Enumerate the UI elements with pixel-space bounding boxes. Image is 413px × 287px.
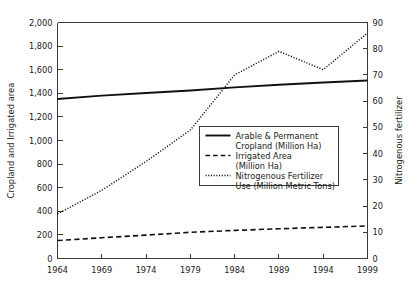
x-tick-label: 1979 xyxy=(180,265,201,275)
legend-label-1: Irrigated Area xyxy=(236,151,292,161)
legend-label-0-line2: Cropland (Million Ha) xyxy=(236,141,322,151)
left-tick-label: 400 xyxy=(37,206,53,216)
chart-container: 02004006008001,0001,2001,4001,6001,8002,… xyxy=(0,0,413,287)
left-tick-label: 2,000 xyxy=(29,18,52,28)
x-tick-label: 1974 xyxy=(136,265,157,275)
left-tick-label: 1,800 xyxy=(29,41,52,51)
line-chart: 02004006008001,0001,2001,4001,6001,8002,… xyxy=(0,0,413,287)
x-tick-label: 1999 xyxy=(357,265,378,275)
x-axis-ticks: 19641969197419791984198919941999 xyxy=(47,254,378,275)
x-tick-label: 1994 xyxy=(313,265,334,275)
legend-label-1-line2: (Million Ha) xyxy=(236,161,283,171)
x-tick-label: 1989 xyxy=(269,265,290,275)
right-tick-label: 20 xyxy=(373,201,383,211)
left-tick-label: 1,600 xyxy=(29,65,52,75)
left-tick-label: 600 xyxy=(37,183,53,193)
right-tick-label: 0 xyxy=(373,254,378,264)
x-tick-label: 1964 xyxy=(47,265,68,275)
right-tick-label: 80 xyxy=(373,44,383,54)
right-tick-label: 70 xyxy=(373,70,383,80)
right-tick-label: 10 xyxy=(373,227,383,237)
left-tick-label: 200 xyxy=(37,230,53,240)
right-tick-label: 30 xyxy=(373,175,383,185)
series-line-0 xyxy=(58,81,368,99)
x-tick-label: 1984 xyxy=(224,265,245,275)
right-tick-label: 40 xyxy=(373,149,383,159)
chart-legend: Arable & PermanentCropland (Million Ha)I… xyxy=(200,127,339,191)
y-axis-label-left: Cropland and Irrigated area xyxy=(6,83,16,199)
right-tick-label: 60 xyxy=(373,96,383,106)
series-line-1 xyxy=(58,226,368,241)
legend-label-2-line2: Use (Million Metric Tons) xyxy=(236,181,335,191)
left-tick-label: 1,000 xyxy=(29,136,52,146)
left-tick-label: 0 xyxy=(47,254,52,264)
left-tick-label: 1,200 xyxy=(29,112,52,122)
left-tick-label: 1,400 xyxy=(29,88,52,98)
right-tick-label: 90 xyxy=(373,18,383,28)
legend-label-0: Arable & Permanent xyxy=(236,131,319,141)
left-tick-label: 800 xyxy=(37,159,53,169)
right-tick-label: 50 xyxy=(373,122,383,132)
y-axis-label-right: Nitrogenous fertilizer xyxy=(394,96,404,185)
right-axis-ticks: 0102030405060708090 xyxy=(363,18,383,264)
x-tick-label: 1969 xyxy=(91,265,112,275)
legend-label-2: Nitrogenous Fertilizer xyxy=(236,171,324,181)
